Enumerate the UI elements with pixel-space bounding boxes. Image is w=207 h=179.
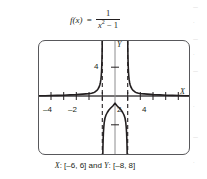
- margin-fragment: —: [193, 4, 198, 9]
- plot-frame: [38, 40, 190, 155]
- caption-and: and: [89, 161, 105, 170]
- fraction: 1 x2 − 1: [96, 9, 120, 30]
- function-name: f(x): [70, 15, 83, 25]
- margin-fragment: ·: [193, 20, 195, 25]
- fraction-denominator: x2 − 1: [96, 20, 120, 30]
- denominator-rest: − 1: [105, 20, 118, 30]
- margin-fragment: ·: [193, 160, 195, 165]
- margin-fragment: —: [193, 134, 198, 139]
- margin-text-fragments: — · — · — · — ·: [191, 0, 207, 179]
- fraction-numerator: 1: [96, 9, 120, 18]
- margin-fragment: —: [193, 36, 198, 41]
- x-tick-label-minus4: –4: [43, 106, 52, 114]
- x-tick-label-minus2: –2: [68, 106, 77, 114]
- function-formula: f(x) = 1 x2 − 1: [0, 10, 190, 31]
- range-caption: X: [–6, 6] and Y: [–8, 8]: [0, 162, 190, 170]
- x-tick-label-4: 4: [142, 106, 146, 114]
- curve-left-branch: [39, 41, 102, 96]
- margin-fragment: ·: [193, 52, 195, 57]
- equals-sign: =: [87, 15, 92, 25]
- margin-fragment: ·: [193, 104, 195, 109]
- y-tick-label-4: 4: [94, 63, 98, 71]
- x-tick-label-2: 2: [117, 106, 121, 114]
- y-axis-label: Y: [117, 41, 121, 49]
- caption-x-range: : [–6, 6]: [60, 161, 89, 170]
- caption-y-range: : [–8, 8]: [109, 161, 136, 170]
- x-axis-label: X: [180, 88, 185, 96]
- graph-figure: f(x) = 1 x2 − 1: [0, 0, 207, 179]
- margin-fragment: —: [193, 68, 198, 73]
- graph-canvas: [39, 41, 190, 155]
